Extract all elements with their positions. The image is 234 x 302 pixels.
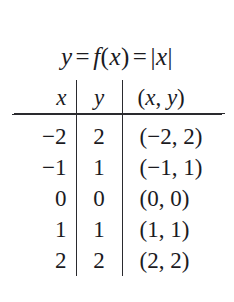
cell-ordered-pair: (0, 0) [122, 183, 222, 214]
formula-equals-second: = [130, 43, 151, 70]
values-table-container: x y (x, y) −2 2 (−2, 2) −1 1 (−1, 1) 0 [0, 80, 234, 290]
formula-arg-close-paren: ) [121, 43, 130, 70]
function-formula: y=f(x)=|x| [0, 42, 234, 72]
cell-x: 0 [12, 183, 76, 214]
formula-abs-argument: x [156, 43, 168, 70]
table-row: 2 2 (2, 2) [12, 245, 222, 276]
cell-x: −1 [12, 152, 76, 183]
table-row: −2 2 (−2, 2) [12, 115, 222, 153]
values-table-head: x y (x, y) [12, 80, 222, 115]
header-separator-rule [14, 113, 225, 114]
table-row: −1 1 (−1, 1) [12, 152, 222, 183]
header-row: x y (x, y) [12, 80, 222, 115]
formula-lhs-variable: y [61, 43, 73, 70]
cell-ordered-pair: (2, 2) [122, 245, 222, 276]
cell-x: 2 [12, 245, 76, 276]
cell-x: 1 [12, 214, 76, 245]
function-table-figure: y=f(x)=|x| x y (x, y) −2 2 (−2 [0, 0, 234, 302]
column-header-y: y [76, 80, 122, 115]
values-table: x y (x, y) −2 2 (−2, 2) −1 1 (−1, 1) 0 [12, 80, 222, 276]
formula-equals-first: = [73, 43, 94, 70]
cell-y: 2 [76, 115, 122, 153]
cell-y: 2 [76, 245, 122, 276]
cell-x: −2 [12, 115, 76, 153]
column-header-x: x [12, 80, 76, 115]
header-pair-close-paren: ) [177, 85, 185, 110]
values-table-body: −2 2 (−2, 2) −1 1 (−1, 1) 0 0 (0, 0) 1 1 [12, 115, 222, 277]
header-pair-comma: , [155, 85, 161, 110]
cell-ordered-pair: (−2, 2) [122, 115, 222, 153]
cell-ordered-pair: (−1, 1) [122, 152, 222, 183]
formula-function-name: f [93, 43, 100, 70]
column-header-ordered-pair: (x, y) [122, 80, 222, 115]
header-pair-y: y [167, 85, 177, 110]
cell-y: 0 [76, 183, 122, 214]
formula-argument: x [109, 43, 121, 70]
table-row: 0 0 (0, 0) [12, 183, 222, 214]
table-row: 1 1 (1, 1) [12, 214, 222, 245]
header-pair-x: x [145, 85, 155, 110]
cell-ordered-pair: (1, 1) [122, 214, 222, 245]
cell-y: 1 [76, 214, 122, 245]
cell-y: 1 [76, 152, 122, 183]
formula-abs-bar-close: | [168, 43, 174, 70]
